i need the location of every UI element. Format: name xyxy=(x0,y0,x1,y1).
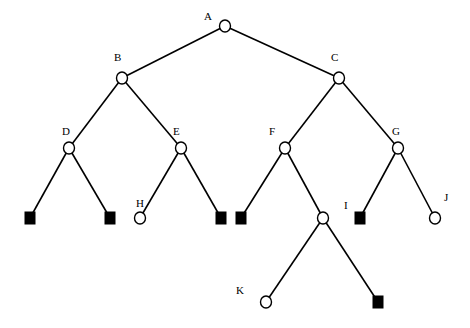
terminal-node-E2 xyxy=(216,212,227,225)
nodes xyxy=(25,20,441,309)
terminal-node-F1 xyxy=(236,212,247,225)
edge-D-D2 xyxy=(69,148,110,218)
edge-C-F xyxy=(285,78,339,148)
chance-node-B xyxy=(117,72,128,84)
node-label-G: G xyxy=(392,125,400,137)
game-tree-diagram: ABCDEFGHIJK xyxy=(0,0,470,328)
chance-node-G xyxy=(393,142,404,154)
edge-G-I xyxy=(360,148,398,218)
chance-node-F xyxy=(280,142,291,154)
chance-node-D xyxy=(64,142,75,154)
chance-node-F2 xyxy=(318,212,329,224)
edge-F-F1 xyxy=(241,148,285,218)
node-label-A: A xyxy=(204,10,212,22)
edge-F-F2 xyxy=(285,148,323,218)
node-label-H: H xyxy=(136,197,144,209)
chance-node-C xyxy=(334,72,345,84)
edge-B-E xyxy=(122,78,181,148)
chance-node-A xyxy=(220,20,231,32)
chance-node-H xyxy=(135,212,146,224)
terminal-node-I xyxy=(355,212,366,225)
edges xyxy=(30,26,435,302)
edge-E-H xyxy=(140,148,181,218)
chance-node-E xyxy=(176,142,187,154)
node-label-E: E xyxy=(173,125,180,137)
edge-E-E2 xyxy=(181,148,221,218)
chance-node-K xyxy=(261,296,272,308)
labels: ABCDEFGHIJK xyxy=(62,10,449,296)
edge-A-B xyxy=(122,26,225,78)
edge-F2-K xyxy=(266,218,323,302)
terminal-node-F2b xyxy=(373,296,384,309)
edge-B-D xyxy=(69,78,122,148)
edge-F2-F2b xyxy=(323,218,378,302)
edge-A-C xyxy=(225,26,339,78)
node-label-F: F xyxy=(269,125,275,137)
node-label-D: D xyxy=(62,125,70,137)
edge-C-G xyxy=(339,78,398,148)
node-label-I: I xyxy=(344,199,348,211)
node-label-J: J xyxy=(444,191,449,203)
node-label-K: K xyxy=(236,284,244,296)
terminal-node-D2 xyxy=(105,212,116,225)
edge-G-J xyxy=(398,148,435,218)
edge-D-D1 xyxy=(30,148,69,218)
node-label-C: C xyxy=(331,51,338,63)
node-label-B: B xyxy=(114,51,121,63)
chance-node-J xyxy=(430,212,441,224)
terminal-node-D1 xyxy=(25,212,36,225)
